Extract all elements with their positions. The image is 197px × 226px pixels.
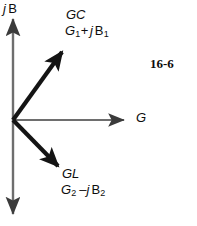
- vector-expression-gl: G2–jB2: [61, 183, 105, 198]
- figure-canvas: jB G GC G1+jB1 GL G2–jB2 16-6: [0, 0, 197, 226]
- vector-expression-gc: G1+jB1: [65, 24, 109, 39]
- vector-label-gc: GC: [66, 8, 86, 21]
- gl-expr-g: G: [61, 182, 71, 197]
- gc-expr-operator: +: [80, 23, 89, 38]
- figure-number: 16-6: [150, 57, 174, 70]
- gl-expr-operator: –: [76, 182, 86, 197]
- axis-label-g: G: [136, 111, 146, 124]
- axis-label-b: B: [6, 1, 17, 16]
- axis-label-jb: jB: [3, 2, 17, 15]
- vector-gc: [13, 52, 62, 120]
- gl-expr-b: B: [89, 182, 100, 197]
- gc-expr-g: G: [65, 23, 75, 38]
- gl-expr-sub2: 2: [100, 188, 105, 198]
- vector-label-gl: GL: [62, 167, 79, 180]
- vector-gl: [13, 120, 58, 166]
- gc-expr-b: B: [93, 23, 104, 38]
- gc-expr-sub2: 1: [103, 29, 108, 39]
